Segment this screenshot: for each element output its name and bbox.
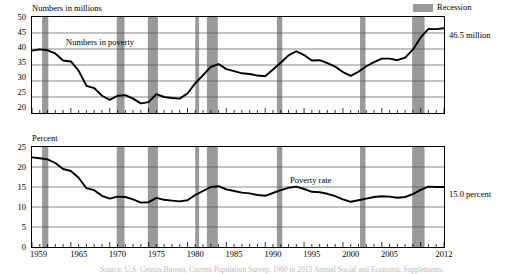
x-tick-label-1985: 1985 bbox=[220, 250, 248, 259]
x-tick-label-2005: 2005 bbox=[376, 250, 404, 259]
top-ytick-20: 20 bbox=[4, 103, 26, 112]
top-series-label: Numbers in poverty bbox=[66, 38, 134, 47]
top-ytick-50: 50 bbox=[4, 13, 26, 22]
top-ytick-40: 40 bbox=[4, 43, 26, 52]
bottom-ytick-0: 0 bbox=[4, 243, 26, 252]
x-tick-label-1965: 1965 bbox=[65, 250, 93, 259]
x-tick-label-1959: 1959 bbox=[30, 250, 58, 259]
top-ytick-30: 30 bbox=[4, 73, 26, 82]
x-tick-label-1970: 1970 bbox=[104, 250, 132, 259]
bottom-ytick-25: 25 bbox=[4, 143, 26, 152]
bottom-ytick-20: 20 bbox=[4, 163, 26, 172]
legend-recession-label: Recession bbox=[437, 3, 471, 12]
bottom-chart-plot-area bbox=[31, 146, 445, 248]
recession-band bbox=[412, 147, 424, 247]
bottom-ytick-10: 10 bbox=[4, 203, 26, 212]
recession-band bbox=[360, 147, 365, 247]
legend-recession-swatch bbox=[413, 4, 433, 12]
recession-band bbox=[277, 147, 282, 247]
x-tick-label-1980: 1980 bbox=[181, 250, 209, 259]
x-tick-label-1995: 1995 bbox=[298, 250, 326, 259]
data-line bbox=[32, 157, 444, 202]
bottom-ytick-5: 5 bbox=[4, 223, 26, 232]
top-chart-plot-area bbox=[31, 16, 445, 114]
recession-band bbox=[42, 147, 48, 247]
top-chart-axis-title: Numbers in millions bbox=[32, 4, 102, 13]
bottom-ytick-15: 15 bbox=[4, 183, 26, 192]
bottom-series-label: Poverty rate bbox=[290, 176, 331, 185]
top-ytick-35: 35 bbox=[4, 58, 26, 67]
recession-band bbox=[195, 147, 199, 247]
x-tick-label-1975: 1975 bbox=[142, 250, 170, 259]
x-tick-label-2012: 2012 bbox=[430, 250, 458, 259]
recession-band bbox=[207, 147, 218, 247]
x-tick-label-2000: 2000 bbox=[337, 250, 365, 259]
bottom-end-value-label: 15.0 percent bbox=[449, 190, 491, 199]
x-tick-label-1990: 1990 bbox=[259, 250, 287, 259]
top-ytick-25: 25 bbox=[4, 88, 26, 97]
top-ytick-45: 45 bbox=[4, 28, 26, 37]
top-end-value-label: 46.5 million bbox=[449, 31, 491, 40]
source-footnote: Source: U.S. Census Bureau, Current Popu… bbox=[100, 266, 512, 274]
bottom-chart-axis-title: Percent bbox=[32, 134, 58, 143]
